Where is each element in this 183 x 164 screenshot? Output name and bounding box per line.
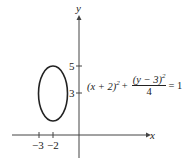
- x-tick-label-minus2: −2: [47, 140, 59, 151]
- x-axis-label: x: [150, 130, 155, 141]
- fraction-denominator: 4: [146, 86, 151, 98]
- ellipse-curve: [39, 66, 68, 121]
- y-axis-arrow-icon: [77, 15, 82, 20]
- y-tick-label-5: 5: [69, 61, 75, 72]
- equation-left-term: (x + 2)2: [87, 79, 120, 92]
- y-axis-label: y: [76, 3, 81, 14]
- x-tick-label-minus3: −3: [32, 140, 44, 151]
- ellipse-equation: (x + 2)2 + (y − 3)2 4 = 1: [87, 73, 182, 98]
- equation-plus: +: [122, 80, 128, 91]
- fraction-numerator: (y − 3)2: [132, 73, 167, 86]
- equation-fraction: (y − 3)2 4: [132, 73, 167, 98]
- y-tick-label-3: 3: [69, 88, 75, 99]
- equation-rhs: = 1: [168, 80, 182, 91]
